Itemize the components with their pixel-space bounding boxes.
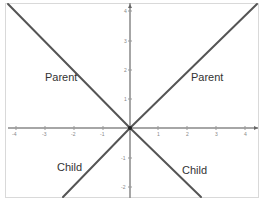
- y-tick-label: 2: [124, 67, 127, 73]
- x-tick-label: 4: [244, 131, 247, 137]
- plot-frame: [6, 4, 259, 198]
- origin-point: [128, 126, 132, 130]
- parent-label-left: Parent: [45, 71, 77, 83]
- y-tick-label: -1: [121, 155, 125, 161]
- x-tick-label: -1: [100, 131, 104, 137]
- y-tick-label: 1: [124, 96, 127, 102]
- y-tick-label: 3: [124, 38, 127, 44]
- child-label-left: Child: [57, 161, 82, 173]
- x-tick-label: 1: [157, 131, 160, 137]
- child-label-right: Child: [182, 164, 207, 176]
- y-tick-label: -2: [121, 184, 125, 190]
- x-tick-label: 3: [215, 131, 218, 137]
- graph-canvas: [0, 0, 270, 204]
- parent-label-right: Parent: [191, 71, 223, 83]
- x-tick-label: -4: [12, 131, 16, 137]
- x-tick-label: 2: [186, 131, 189, 137]
- x-tick-label: -2: [71, 131, 75, 137]
- x-tick-label: -3: [42, 131, 46, 137]
- y-tick-label: 4: [124, 8, 127, 14]
